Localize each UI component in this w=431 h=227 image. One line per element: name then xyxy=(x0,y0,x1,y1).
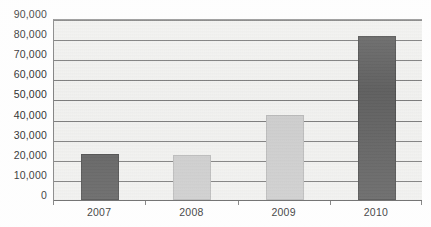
bars-layer xyxy=(54,20,422,200)
y-axis-tick-label: 70,000 xyxy=(0,49,47,59)
y-axis-tick-label: 50,000 xyxy=(0,89,47,99)
x-axis-tick-label-2007: 2007 xyxy=(87,206,111,218)
plot-area xyxy=(53,19,422,200)
x-axis-tick-label-2008: 2008 xyxy=(179,206,203,218)
x-axis: 2007 2008 2009 2010 xyxy=(53,206,422,224)
y-axis-tick-label: 0 xyxy=(0,190,47,200)
bar-chart-figure: 90,000 80,000 70,000 60,000 50,000 40,00… xyxy=(0,0,431,227)
y-axis-tick-label: 30,000 xyxy=(0,130,47,140)
bar-2010[interactable] xyxy=(358,36,396,200)
bar-slot-2010 xyxy=(331,20,423,200)
y-axis-tick-label: 90,000 xyxy=(0,9,47,19)
x-axis-tick-label-2010: 2010 xyxy=(364,206,388,218)
bar-2009[interactable] xyxy=(266,115,304,200)
gridline-baseline-0 xyxy=(54,200,422,202)
y-axis-tick-label: 10,000 xyxy=(0,170,47,180)
y-axis-tick-label: 20,000 xyxy=(0,150,47,160)
y-axis-tick-label: 40,000 xyxy=(0,110,47,120)
x-axis-tick-label-2009: 2009 xyxy=(272,206,296,218)
y-axis-tick-label: 80,000 xyxy=(0,29,47,39)
bar-slot-2008 xyxy=(146,20,238,200)
bar-2007[interactable] xyxy=(81,154,119,200)
bar-slot-2007 xyxy=(54,20,146,200)
bar-2008[interactable] xyxy=(173,155,211,200)
y-axis-tick-label: 60,000 xyxy=(0,69,47,79)
bar-slot-2009 xyxy=(239,20,331,200)
y-axis: 90,000 80,000 70,000 60,000 50,000 40,00… xyxy=(0,14,50,200)
